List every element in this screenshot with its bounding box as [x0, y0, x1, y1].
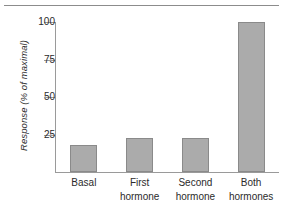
x-label-basal: Basal [56, 176, 112, 190]
y-tick-25: 25 [0, 135, 55, 136]
bar-chart-figure: Response (% of maximal) 255075100 BasalF… [0, 0, 283, 214]
x-label-line: hormone [112, 190, 168, 204]
x-label-first-hormone: Firsthormone [112, 176, 168, 203]
plot-area [56, 22, 279, 172]
top-divider-rule [4, 5, 279, 6]
bar-first-hormone [126, 138, 153, 173]
y-tick-100: 100 [0, 22, 55, 23]
bar-both-hormones [238, 22, 265, 172]
y-tick-label: 100 [15, 15, 55, 28]
bar-basal [70, 145, 97, 172]
x-label-line: Both [223, 176, 279, 190]
x-axis-line [55, 172, 279, 173]
y-tick-label: 50 [15, 90, 55, 103]
y-tick-label: 25 [15, 128, 55, 141]
x-label-both-hormones: Bothhormones [223, 176, 279, 203]
y-tick-label: 75 [15, 53, 55, 66]
x-label-line: First [112, 176, 168, 190]
bar-second-hormone [182, 138, 209, 173]
y-tick-50: 50 [0, 97, 55, 98]
x-axis-labels: BasalFirsthormoneSecondhormoneBothhormon… [56, 176, 279, 214]
y-tick-75: 75 [0, 60, 55, 61]
x-label-line: Basal [56, 176, 112, 190]
x-label-line: hormone [168, 190, 224, 204]
x-label-second-hormone: Secondhormone [168, 176, 224, 203]
x-label-line: hormones [223, 190, 279, 204]
x-label-line: Second [168, 176, 224, 190]
